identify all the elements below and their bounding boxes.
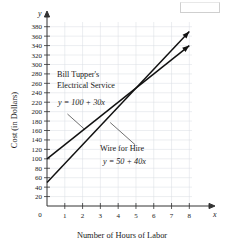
- x-tick-label: 3: [99, 212, 103, 220]
- y-tick-label: 380: [32, 23, 43, 31]
- y-axis-caption: Cost (in Dollars): [10, 92, 19, 149]
- x-axis-symbol: x: [212, 210, 217, 219]
- y-tick-label: 200: [32, 108, 43, 116]
- chart-container: 2040608010012014016018020022024026028030…: [0, 0, 225, 243]
- leader-line-wire-for-hire: [110, 122, 135, 144]
- x-tick-label: 5: [134, 212, 138, 220]
- x-axis-arrowhead: [209, 203, 215, 208]
- y-tick-label: 320: [32, 52, 43, 60]
- annotation-bill-tupper-line1: Bill Tupper's: [57, 70, 99, 79]
- y-tick-label: 300: [32, 61, 43, 69]
- y-tick-label: 260: [32, 80, 43, 88]
- gridlines-group: [47, 22, 192, 206]
- y-tick-label: 20: [35, 193, 43, 201]
- y-tick-label: 100: [32, 155, 43, 163]
- annotation-wire-for-hire-equation: y = 50 + 40x: [102, 157, 146, 166]
- x-tick-label: 1: [63, 212, 67, 220]
- corner-artifact-box: [180, 2, 220, 13]
- y-tick-label: 160: [32, 127, 43, 135]
- cost-vs-hours-line-chart: 2040608010012014016018020022024026028030…: [0, 0, 225, 243]
- y-tick-label: 280: [32, 70, 43, 78]
- y-axis-symbol: y: [37, 9, 42, 18]
- y-tick-label: 60: [35, 174, 43, 182]
- x-tick-label: 4: [116, 212, 120, 220]
- y-tick-label: 360: [32, 33, 43, 41]
- x-tick-label: 6: [152, 212, 156, 220]
- y-tick-label: 340: [32, 42, 43, 50]
- x-tick-label: 2: [81, 212, 85, 220]
- x-axis-caption: Number of Hours of Labor: [77, 231, 167, 240]
- y-tick-label: 180: [32, 118, 43, 126]
- x-tick-label: 8: [188, 212, 192, 220]
- origin-label: 0: [38, 211, 42, 219]
- y-tick-label: 220: [32, 99, 43, 107]
- y-tick-label: 140: [32, 136, 43, 144]
- y-tick-label: 40: [35, 184, 43, 192]
- y-tick-label: 80: [35, 165, 43, 173]
- y-axis-arrowhead: [44, 11, 49, 17]
- y-tick-label: 120: [32, 146, 43, 154]
- annotation-bill-tupper-equation: y = 100 + 30x: [57, 98, 105, 107]
- x-tick-label: 7: [170, 212, 174, 220]
- annotation-bill-tupper-line2: Electrical Service: [57, 81, 115, 90]
- leader-line-bill-tupper: [67, 114, 84, 129]
- annotation-wire-for-hire-line1: Wire for Hire: [100, 144, 145, 153]
- y-tick-label: 240: [32, 89, 43, 97]
